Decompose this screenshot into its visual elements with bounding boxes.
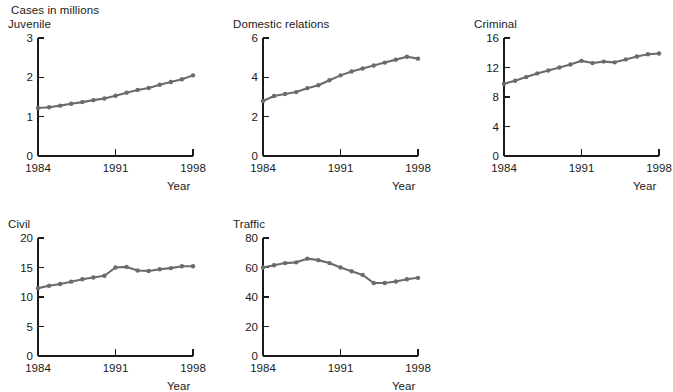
chart-panel-juvenile: Juvenile0123198419911998Year — [8, 18, 207, 182]
x-tick-label-civil-2: 1998 — [180, 362, 206, 374]
data-point-criminal-1997 — [646, 52, 650, 56]
data-point-criminal-1984 — [502, 82, 506, 86]
data-point-civil-1989 — [91, 275, 95, 279]
y-tick-label-domestic-relations-3: 6 — [252, 32, 258, 44]
data-point-civil-1984 — [36, 286, 40, 290]
data-point-juvenile-1995 — [158, 83, 162, 87]
data-point-criminal-1987 — [535, 71, 539, 75]
y-tick-label-traffic-2: 40 — [245, 291, 258, 303]
data-point-traffic-1998 — [416, 276, 420, 280]
data-point-civil-1986 — [58, 282, 62, 286]
data-point-traffic-1997 — [405, 277, 409, 281]
chart-plot-juvenile: 0123198419911998 — [8, 32, 207, 182]
y-tick-label-traffic-3: 60 — [245, 262, 258, 274]
y-tick-label-juvenile-2: 2 — [27, 71, 33, 83]
data-point-civil-1988 — [80, 277, 84, 281]
data-point-juvenile-1992 — [124, 90, 128, 94]
data-point-domestic-relations-1995 — [383, 60, 387, 64]
data-point-domestic-relations-1994 — [372, 63, 376, 67]
data-point-domestic-relations-1984 — [261, 99, 265, 103]
data-point-juvenile-1997 — [180, 77, 184, 81]
data-point-criminal-1992 — [590, 61, 594, 65]
data-point-traffic-1988 — [305, 256, 309, 260]
data-point-juvenile-1991 — [113, 94, 117, 98]
data-point-civil-1990 — [102, 274, 106, 278]
y-tick-label-civil-4: 20 — [20, 232, 33, 244]
chart-panel-traffic: Traffic020406080198419911998Year — [233, 218, 432, 382]
data-point-criminal-1986 — [524, 75, 528, 79]
data-point-domestic-relations-1996 — [394, 57, 398, 61]
chart-title-juvenile: Juvenile — [8, 18, 51, 30]
data-point-traffic-1994 — [372, 281, 376, 285]
data-point-juvenile-1985 — [47, 105, 51, 109]
data-point-traffic-1986 — [283, 261, 287, 265]
x-tick-label-domestic-relations-2: 1998 — [405, 162, 431, 174]
x-tick-label-criminal-1: 1991 — [569, 162, 595, 174]
y-tick-label-criminal-1: 4 — [493, 121, 500, 133]
data-point-juvenile-1996 — [169, 80, 173, 84]
x-tick-label-civil-0: 1984 — [25, 362, 51, 374]
figure-super-title: Cases in millions — [11, 4, 99, 16]
x-tick-label-juvenile-1: 1991 — [103, 162, 129, 174]
data-point-criminal-1991 — [579, 59, 583, 63]
data-point-criminal-1995 — [624, 57, 628, 61]
data-point-traffic-1984 — [261, 265, 265, 269]
data-point-civil-1992 — [124, 265, 128, 269]
y-tick-label-traffic-1: 20 — [245, 321, 258, 333]
x-tick-label-domestic-relations-1: 1991 — [328, 162, 354, 174]
data-point-civil-1994 — [147, 269, 151, 273]
data-point-domestic-relations-1991 — [338, 73, 342, 77]
y-tick-label-civil-1: 5 — [27, 321, 33, 333]
chart-panel-civil: Civil05101520198419911998Year — [8, 218, 207, 382]
x-tick-label-juvenile-0: 1984 — [25, 162, 51, 174]
x-axis-title-juvenile: Year — [167, 180, 190, 192]
data-point-criminal-1988 — [546, 68, 550, 72]
x-axis-title-traffic: Year — [392, 380, 415, 392]
data-point-traffic-1987 — [294, 260, 298, 264]
data-point-traffic-1993 — [360, 273, 364, 277]
data-point-civil-1985 — [47, 284, 51, 288]
x-tick-label-domestic-relations-0: 1984 — [250, 162, 276, 174]
data-point-civil-1997 — [180, 264, 184, 268]
data-point-traffic-1985 — [272, 263, 276, 267]
data-point-criminal-1990 — [568, 62, 572, 66]
data-point-juvenile-1989 — [91, 98, 95, 102]
data-point-domestic-relations-1988 — [305, 86, 309, 90]
y-tick-label-domestic-relations-0: 0 — [252, 150, 258, 162]
data-point-domestic-relations-1986 — [283, 92, 287, 96]
data-point-traffic-1989 — [316, 258, 320, 262]
x-axis-title-criminal: Year — [633, 180, 656, 192]
data-point-domestic-relations-1987 — [294, 90, 298, 94]
data-point-civil-1995 — [158, 267, 162, 271]
y-tick-label-juvenile-3: 3 — [27, 32, 33, 44]
y-tick-label-civil-0: 0 — [27, 350, 33, 362]
y-tick-label-traffic-0: 0 — [252, 350, 258, 362]
data-point-domestic-relations-1993 — [360, 66, 364, 70]
data-point-criminal-1993 — [601, 59, 605, 63]
x-tick-label-traffic-1: 1991 — [328, 362, 354, 374]
data-point-civil-1987 — [69, 279, 73, 283]
chart-plot-traffic: 020406080198419911998 — [233, 232, 432, 382]
data-point-juvenile-1988 — [80, 100, 84, 104]
chart-plot-criminal: 0481216198419911998 — [474, 32, 673, 182]
data-point-civil-1991 — [113, 265, 117, 269]
data-point-juvenile-1986 — [58, 103, 62, 107]
data-point-domestic-relations-1990 — [327, 78, 331, 82]
y-tick-label-juvenile-1: 1 — [27, 111, 33, 123]
y-tick-label-traffic-4: 80 — [245, 232, 258, 244]
chart-panel-domestic-relations: Domestic relations0246198419911998Year — [233, 18, 432, 182]
x-tick-label-civil-1: 1991 — [103, 362, 129, 374]
data-point-domestic-relations-1997 — [405, 54, 409, 58]
y-tick-label-criminal-0: 0 — [493, 150, 499, 162]
data-point-domestic-relations-1998 — [416, 56, 420, 60]
data-point-traffic-1996 — [394, 279, 398, 283]
y-tick-label-criminal-2: 8 — [493, 91, 499, 103]
chart-plot-domestic-relations: 0246198419911998 — [233, 32, 432, 182]
data-point-criminal-1989 — [557, 65, 561, 69]
y-tick-label-civil-2: 10 — [20, 291, 33, 303]
data-point-civil-1998 — [191, 264, 195, 268]
data-point-criminal-1998 — [657, 51, 661, 55]
data-point-traffic-1995 — [383, 281, 387, 285]
data-point-juvenile-1990 — [102, 96, 106, 100]
